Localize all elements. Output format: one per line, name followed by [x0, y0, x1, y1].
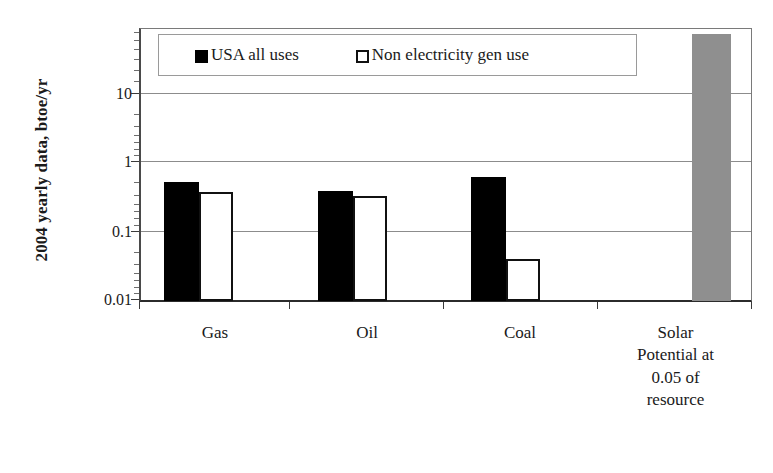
x-category-label-solar-line-2: Potential at	[598, 344, 753, 366]
x-tick-mark-coal-solar	[597, 302, 598, 309]
bar-solar-potential[interactable]	[692, 34, 731, 301]
open-square-marker-icon	[356, 50, 369, 63]
x-tick-mark-oil-coal	[443, 302, 444, 309]
y-axis-tick-labels: 10 1 0.1 0.01	[88, 0, 132, 473]
bar-gas-usa-all-uses[interactable]	[164, 182, 199, 301]
y-tick-label-10: 10	[88, 86, 132, 102]
y-tick-label-0.01: 0.01	[88, 292, 132, 308]
x-category-label-gas: Gas	[140, 322, 290, 344]
x-tick-mark-right-edge	[751, 302, 752, 309]
x-category-label-solar-line-1: Solar	[598, 322, 753, 344]
legend-label-usa-all-uses: USA all uses	[211, 45, 299, 65]
legend-entry-usa-all-uses[interactable]: USA all uses	[195, 45, 299, 65]
bar-gas-non-electricity-gen-use[interactable]	[199, 192, 233, 301]
legend-entry-non-electricity-gen-use[interactable]: Non electricity gen use	[356, 45, 529, 65]
x-category-label-solar-line-4: resource	[598, 389, 753, 411]
x-category-label-coal: Coal	[445, 322, 595, 344]
bar-coal-non-electricity-gen-use[interactable]	[506, 259, 540, 301]
gridline-1	[141, 161, 751, 162]
chart-figure: 2004 yearly data, btoe/yr 10 1 0.1 0.01	[0, 0, 773, 473]
x-tick-mark-gas-oil	[289, 302, 290, 309]
y-tick-label-0.1: 0.1	[88, 224, 132, 240]
legend-label-non-electricity-gen-use: Non electricity gen use	[372, 45, 529, 65]
bar-oil-non-electricity-gen-use[interactable]	[353, 196, 387, 301]
y-tick-label-1: 1	[88, 154, 132, 170]
x-category-label-oil: Oil	[292, 322, 442, 344]
gridline-10	[141, 93, 751, 94]
filled-square-marker-icon	[195, 50, 208, 63]
x-category-label-solar-potential: Solar Potential at 0.05 of resource	[598, 322, 753, 412]
bar-oil-usa-all-uses[interactable]	[318, 191, 353, 301]
y-axis-title: 2004 yearly data, btoe/yr	[32, 25, 52, 315]
chart-legend: USA all uses Non electricity gen use	[158, 34, 637, 76]
bar-coal-usa-all-uses[interactable]	[471, 177, 506, 301]
x-tick-mark-left-edge	[139, 302, 140, 309]
x-category-label-solar-line-3: 0.05 of	[598, 367, 753, 389]
